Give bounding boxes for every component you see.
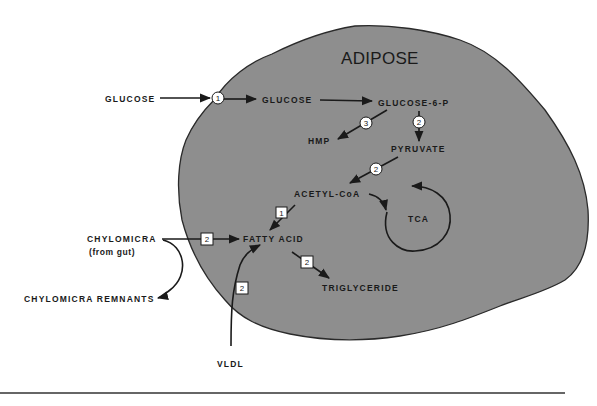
chylomicra-remnants-label: CHYLOMICRA REMNANTS <box>24 294 155 304</box>
chylomicra-source-label: (from gut) <box>89 247 135 257</box>
enzyme-marker-3-circle: 3 <box>360 117 372 129</box>
svg-text:3: 3 <box>364 119 369 128</box>
chylomicra-remnants-arrow <box>158 240 183 298</box>
acetyl-coa-label: ACETYL-CoA <box>294 189 360 199</box>
adipose-metabolism-diagram: ADIPOSE GLUCOSE 1 GLUCOSE GLUCOSE-6-P 3 … <box>0 0 597 406</box>
svg-text:2: 2 <box>374 165 379 174</box>
enzyme-marker-2-square-chylomicra: 2 <box>201 233 213 245</box>
svg-text:2: 2 <box>417 118 422 127</box>
hmp-label: HMP <box>308 136 331 146</box>
enzyme-marker-2-circle-pdh: 2 <box>370 163 382 175</box>
vldl-label: VLDL <box>217 359 244 369</box>
enzyme-marker-2-square-vldl: 2 <box>236 282 248 294</box>
tca-label: TCA <box>408 214 429 224</box>
svg-text:1: 1 <box>216 94 221 103</box>
svg-text:1: 1 <box>279 209 284 218</box>
glucose-to-g6p-arrow <box>320 100 372 101</box>
enzyme-marker-1-square: 1 <box>276 207 287 218</box>
enzyme-marker-2-square-triglyceride: 2 <box>301 256 313 268</box>
glucose-internal-label: GLUCOSE <box>262 95 312 105</box>
svg-text:2: 2 <box>240 284 245 293</box>
g6p-label: GLUCOSE-6-P <box>378 98 449 108</box>
pyruvate-label: PYRUVATE <box>391 144 446 154</box>
cell-title: ADIPOSE <box>341 49 419 68</box>
triglyceride-label: TRIGLYCERIDE <box>322 283 399 293</box>
chylomicra-label: CHYLOMICRA <box>87 234 157 244</box>
svg-text:2: 2 <box>305 258 310 267</box>
enzyme-marker-2-circle-glycolysis: 2 <box>413 116 425 128</box>
glucose-external-label: GLUCOSE <box>105 94 155 104</box>
fatty-acid-label: FATTY ACID <box>243 234 304 244</box>
svg-text:2: 2 <box>205 235 210 244</box>
enzyme-marker-1-circle: 1 <box>212 92 224 104</box>
